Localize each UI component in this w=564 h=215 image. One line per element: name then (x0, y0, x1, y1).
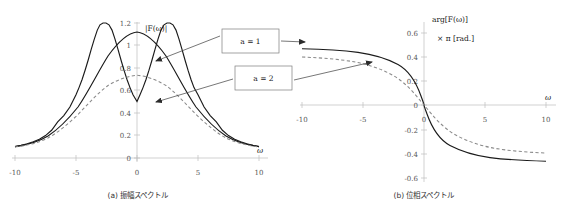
callout-a2[interactable]: a = 2 (235, 66, 292, 90)
callout-a1-label: a = 1 (240, 37, 260, 46)
phase-xtick-0: -10 (296, 116, 307, 124)
phase-xtick-1: -5 (360, 116, 367, 124)
amplitude-panel-caption: (a) 振幅スペクトル (108, 190, 170, 200)
fourier-spectra-figure: -10 -5 0 5 10 0 0.2 0.4 0.6 0.8 1 1.2 (0, 0, 564, 215)
amplitude-ytick-6: 1.2 (120, 20, 131, 28)
amplitude-ytick-4: 0.8 (120, 65, 131, 73)
callout-a1-leader-right (281, 41, 305, 42)
amplitude-ytick-2: 0.4 (120, 110, 132, 118)
phase-ytick-6: 0.6 (407, 30, 419, 38)
amplitude-xtick-4: 10 (255, 169, 264, 177)
callout-a2-leader-right (294, 62, 372, 80)
phase-ytick-3: 0 (414, 102, 418, 110)
panel-phase: -10 -5 0 5 10 -0.6 -0.4 -0.2 0 0.2 0.4 0… (296, 15, 556, 200)
phase-y-axis-unit: × π [rad.] (437, 34, 474, 43)
amplitude-ytick-1: 0.2 (120, 132, 131, 140)
phase-xtick-2: 0 (422, 116, 426, 124)
phase-y-axis-label: arg[F(ω)] (432, 15, 468, 24)
amplitude-xtick-1: -5 (73, 169, 80, 177)
amplitude-xtick-0: -10 (9, 169, 20, 177)
phase-x-axis-label: ω (545, 93, 551, 102)
phase-ytick-2: -0.2 (405, 127, 419, 135)
phase-panel-caption: (b) 位相スペクトル (394, 190, 456, 200)
amplitude-ytick-5: 1 (127, 42, 131, 50)
phase-xtick-4: 10 (542, 116, 551, 124)
amplitude-xtick-3: 5 (196, 169, 200, 177)
phase-ytick-5: 0.4 (407, 54, 419, 62)
phase-ytick-0: -0.6 (405, 175, 419, 183)
figure-canvas: -10 -5 0 5 10 0 0.2 0.4 0.6 0.8 1 1.2 (0, 0, 564, 215)
amplitude-ytick-0: 0 (127, 155, 131, 163)
callout-a2-leader-left (156, 79, 233, 102)
amplitude-x-axis-label: ω (257, 146, 263, 155)
phase-xtick-3: 5 (483, 116, 487, 124)
callout-a1-leader-left (156, 36, 220, 61)
callout-a1[interactable]: a = 1 (222, 29, 279, 53)
phase-ytick-1: -0.4 (405, 151, 419, 159)
amplitude-xtick-2: 0 (135, 169, 139, 177)
callout-a2-label: a = 2 (253, 74, 274, 83)
